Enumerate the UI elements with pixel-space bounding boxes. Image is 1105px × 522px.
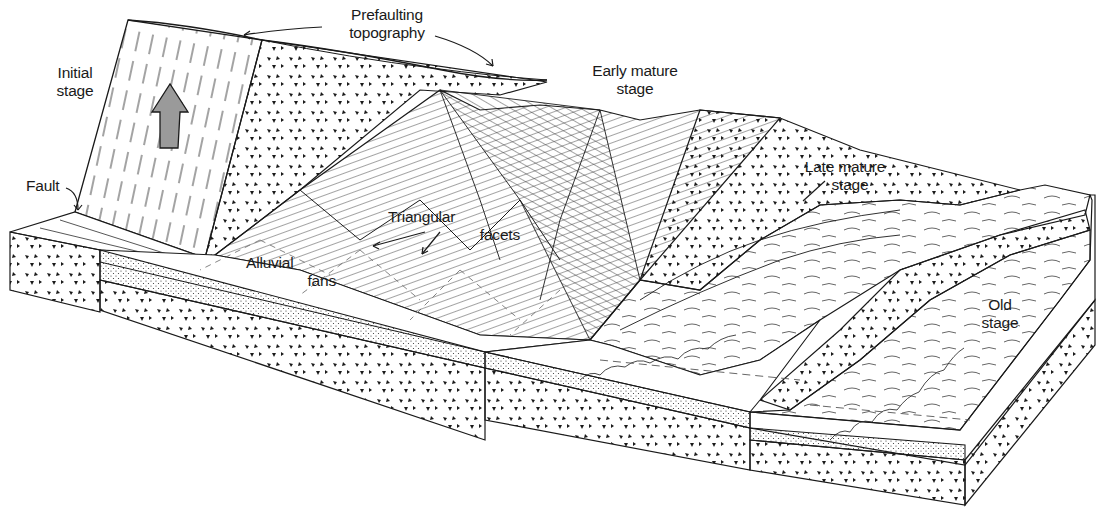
- label-old-line1: Old: [975, 296, 1025, 314]
- label-triangular-line2: facets: [380, 226, 520, 244]
- label-old-stage: Old stage: [975, 296, 1025, 332]
- label-alluvial-line1: Alluvial: [246, 254, 336, 272]
- label-old-line2: stage: [975, 314, 1025, 332]
- label-initial-line1: Initial: [40, 64, 110, 82]
- label-prefaulting-line1: Prefaulting: [322, 6, 452, 24]
- label-fault: Fault: [26, 177, 59, 195]
- label-initial-line2: stage: [40, 82, 110, 100]
- label-triangular-facets: Triangular facets: [380, 208, 520, 244]
- label-early-mature-line1: Early mature: [580, 62, 690, 80]
- label-prefaulting-topography: Prefaulting topography: [322, 6, 452, 42]
- label-alluvial-fans: Alluvial fans: [246, 254, 336, 290]
- label-triangular-line1: Triangular: [380, 208, 520, 226]
- label-early-mature-stage: Early mature stage: [580, 62, 690, 98]
- label-alluvial-line2: fans: [246, 272, 336, 290]
- label-late-mature-line2: stage: [790, 176, 900, 194]
- fault-block-diagram: [0, 0, 1105, 522]
- label-initial-stage: Initial stage: [40, 64, 110, 100]
- label-late-mature-line1: Late mature: [790, 158, 900, 176]
- label-late-mature-stage: Late mature stage: [790, 158, 900, 194]
- label-prefaulting-line2: topography: [322, 24, 452, 42]
- label-early-mature-line2: stage: [580, 80, 690, 98]
